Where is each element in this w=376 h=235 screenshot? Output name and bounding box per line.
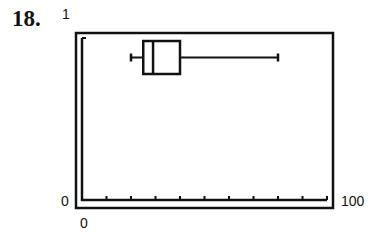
iqr-box bbox=[143, 41, 180, 74]
box-plot bbox=[131, 41, 278, 74]
calculator-window-frame bbox=[76, 33, 333, 208]
box-plot-chart bbox=[0, 0, 376, 235]
